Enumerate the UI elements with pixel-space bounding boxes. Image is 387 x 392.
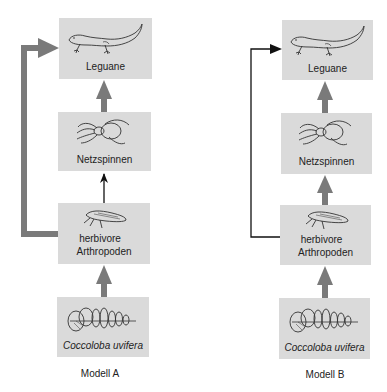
arrow-b-coccoloba-to-herbivore (317, 266, 333, 298)
leafhopper-icon (80, 207, 130, 231)
node-label: Netzspinnen (58, 154, 151, 166)
node-leguane: Leguane (59, 18, 152, 79)
node-label-line1: herbivore (50, 233, 150, 245)
leafhopper-icon (302, 208, 352, 232)
node-label: Leguane (282, 63, 373, 75)
node-label: Leguane (59, 61, 152, 73)
node-herbivore-arthropoden: herbivore Arthropoden (280, 205, 371, 265)
spider-icon (297, 118, 357, 148)
node-netzspinnen: Netzspinnen (58, 112, 151, 171)
model-caption: Modell A (60, 368, 140, 379)
arrow-b-netzspinnen-to-leguane (317, 81, 333, 113)
lizard-icon (65, 23, 145, 55)
arrow-b-herbivore-to-leguane-bypass (251, 44, 282, 237)
arrow-b-herbivore-to-netzspinnen (317, 175, 333, 205)
arrow-a-netzspinnen-to-leguane (96, 80, 112, 112)
node-coccoloba-uvifera: Coccoloba uvifera (57, 297, 149, 357)
node-herbivore-arthropoden: herbivore Arthropoden (58, 203, 150, 264)
node-label-line1: herbivore (272, 234, 371, 246)
node-label: Coccoloba uvifera (279, 342, 370, 354)
node-coccoloba-uvifera: Coccoloba uvifera (279, 298, 370, 359)
node-label: Coccoloba uvifera (57, 340, 149, 352)
spider-icon (75, 117, 135, 147)
model-caption: Modell B (285, 369, 365, 380)
arrow-a-herbivore-to-leguane-bypass (21, 38, 59, 237)
seagrape-plant-icon (66, 303, 138, 335)
arrow-a-coccoloba-to-herbivore (96, 265, 112, 297)
node-label-line2: Arthropoden (58, 246, 150, 258)
node-netzspinnen: Netzspinnen (281, 113, 372, 174)
node-leguane: Leguane (282, 20, 373, 80)
lizard-icon (287, 25, 367, 57)
node-label: Netzspinnen (281, 156, 372, 168)
node-label-line2: Arthropoden (280, 247, 371, 259)
seagrape-plant-icon (288, 304, 360, 336)
